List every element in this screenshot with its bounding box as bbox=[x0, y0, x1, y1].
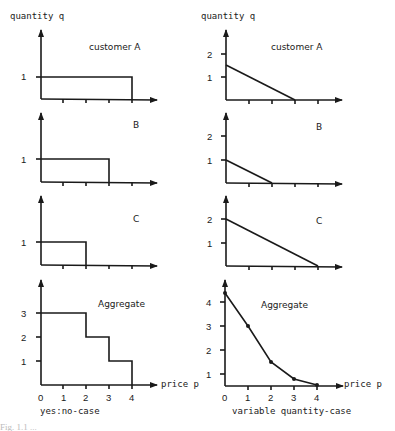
left-agg-xtick-0: 0 bbox=[38, 392, 43, 403]
right-agg-xtick-1: 1 bbox=[245, 392, 250, 403]
right-panel-c-axes bbox=[221, 196, 342, 270]
right-ylabel: quantity q bbox=[201, 11, 255, 21]
right-panel-c-title: C bbox=[316, 216, 322, 226]
left-panel-aggregate-title: Aggregate bbox=[98, 299, 145, 309]
left-case-caption: yes:no-case bbox=[40, 406, 100, 416]
left-panel-a-curve bbox=[41, 77, 132, 99]
right-b-ytick-2: 2 bbox=[207, 131, 212, 142]
right-c-ytick-2: 2 bbox=[207, 214, 212, 225]
left-agg-ytick-3: 3 bbox=[21, 308, 26, 319]
left-agg-xtick-4: 4 bbox=[129, 392, 134, 403]
left-xlabel: price p bbox=[161, 379, 199, 389]
right-panel-b-title: B bbox=[316, 122, 322, 132]
left-panel-a-title: customer A bbox=[89, 42, 140, 52]
left-c-ytick: 1 bbox=[21, 237, 26, 248]
right-a-ytick-1: 1 bbox=[207, 72, 212, 83]
left-agg-ytick-2: 2 bbox=[21, 332, 26, 343]
left-panel-aggregate-axes bbox=[36, 280, 157, 389]
right-panel-b-curve bbox=[226, 160, 272, 183]
left-ylabel: quantity q bbox=[10, 11, 64, 21]
left-agg-xtick-3: 3 bbox=[106, 392, 111, 403]
left-panel-aggregate-curve bbox=[41, 313, 132, 385]
right-panel-c-curve bbox=[226, 219, 318, 266]
left-agg-ytick-1: 1 bbox=[21, 356, 26, 367]
right-a-ytick-2: 2 bbox=[207, 49, 212, 60]
left-panel-c-title: C bbox=[133, 214, 139, 224]
right-agg-xtick-2: 2 bbox=[268, 392, 273, 403]
clipped-figure-caption: Fig. 1.1 ... bbox=[0, 422, 395, 431]
right-agg-ytick-1: 1 bbox=[206, 369, 211, 380]
left-b-ytick: 1 bbox=[21, 154, 26, 165]
right-c-ytick-1: 1 bbox=[207, 238, 212, 249]
right-panel-aggregate-title: Aggregate bbox=[261, 300, 308, 310]
left-agg-xtick-1: 1 bbox=[61, 392, 66, 403]
right-case-caption: variable quantity-case bbox=[232, 406, 351, 416]
right-panel-b-axes bbox=[221, 113, 342, 187]
right-panel-a-curve bbox=[226, 65, 295, 100]
figure-canvas bbox=[0, 0, 395, 431]
right-agg-ytick-4: 4 bbox=[206, 297, 211, 308]
left-panel-c-curve bbox=[41, 242, 86, 265]
right-panel-aggregate-axes bbox=[220, 280, 343, 390]
right-agg-xtick-3: 3 bbox=[291, 392, 296, 403]
right-agg-xtick-4: 4 bbox=[314, 392, 319, 403]
right-xlabel: price p bbox=[344, 379, 382, 389]
left-panel-b-curve bbox=[41, 159, 109, 182]
right-agg-ytick-2: 2 bbox=[206, 345, 211, 356]
right-agg-ytick-3: 3 bbox=[206, 321, 211, 332]
left-panel-b-title: B bbox=[133, 120, 139, 130]
right-panel-a-title: customer A bbox=[271, 42, 322, 52]
left-panel-c-axes bbox=[36, 196, 157, 269]
left-a-ytick: 1 bbox=[21, 71, 26, 82]
right-b-ytick-1: 1 bbox=[207, 155, 212, 166]
left-agg-xtick-2: 2 bbox=[83, 392, 88, 403]
right-agg-xtick-0: 0 bbox=[222, 392, 227, 403]
left-panel-a-axes bbox=[36, 30, 157, 103]
